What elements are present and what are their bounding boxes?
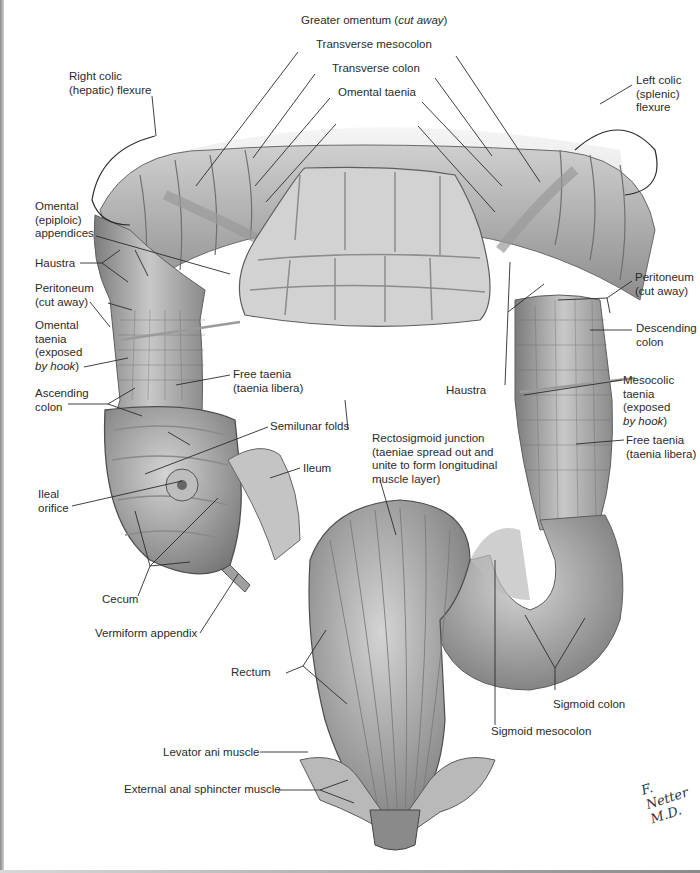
label-text-italic: cut away [398, 14, 443, 26]
label-line: orifice [38, 502, 69, 516]
label-line: unite to form longitudinal [372, 459, 497, 473]
label-line: taenia [35, 333, 82, 347]
label-line: Ileal [38, 488, 69, 502]
colon-illustration [0, 0, 700, 873]
label-descending-colon: Descending colon [636, 322, 697, 349]
label-ascending-colon: Ascending colon [35, 387, 89, 414]
label-peritoneum-left: Peritoneum (cut away) [35, 282, 94, 309]
label-line: by hook) [35, 360, 82, 374]
label-free-taenia-left: Free taenia (taenia libera) [233, 368, 303, 395]
label-line: Descending [636, 322, 697, 336]
label-transverse-mesocolon: Transverse mesocolon [316, 38, 432, 52]
label-line: Mesocolic [623, 374, 674, 388]
label-line: Omental [35, 200, 94, 214]
label-line: Free taenia [626, 434, 696, 448]
label-line: Peritoneum [635, 271, 694, 285]
label-line: (taeniae spread out and [372, 446, 497, 460]
label-haustra-left: Haustra [35, 257, 75, 271]
label-line: colon [35, 401, 89, 415]
label-sigmoid-colon: Sigmoid colon [553, 698, 625, 712]
label-line: appendices [35, 227, 94, 241]
label-text-suffix: ) [444, 14, 448, 26]
label-omental-taenia-left: Omental taenia (exposed by hook) [35, 319, 82, 373]
label-line: Omental [35, 319, 82, 333]
label-line: colon [636, 336, 697, 350]
label-line: (exposed [623, 401, 674, 415]
label-transverse-colon: Transverse colon [332, 62, 420, 76]
label-text-italic: by hook [35, 360, 75, 372]
label-ileal-orifice: Ileal orifice [38, 488, 69, 515]
external-anal-sphincter-shape [370, 810, 420, 850]
label-free-taenia-right: Free taenia (taenia libera) [626, 434, 696, 461]
label-line: Free taenia [233, 368, 303, 382]
label-line: muscle layer) [372, 473, 497, 487]
label-levator-ani: Levator ani muscle [163, 746, 260, 760]
label-line: Peritoneum [35, 282, 94, 296]
label-ileum: Ileum [303, 462, 331, 476]
label-line: (hepatic) flexure [69, 84, 151, 98]
label-line: Rectosigmoid junction [372, 432, 497, 446]
label-line: (cut away) [35, 296, 94, 310]
label-line: (exposed [35, 346, 82, 360]
label-peritoneum-right: Peritoneum (cut away) [635, 271, 694, 298]
label-line: (cut away) [635, 285, 694, 299]
label-greater-omentum: Greater omentum (cut away) [301, 14, 447, 28]
label-text-italic: by hook [623, 415, 663, 427]
vermiform-appendix-shape [222, 565, 250, 592]
label-right-colic-flexure: Right colic (hepatic) flexure [69, 70, 151, 97]
label-line: by hook) [623, 415, 674, 429]
label-line: Right colic [69, 70, 151, 84]
label-external-anal-sphincter: External anal sphincter muscle [124, 783, 281, 797]
label-omental-taenia-top: Omental taenia [338, 86, 416, 100]
label-line: Left colic [636, 74, 681, 88]
label-sigmoid-mesocolon: Sigmoid mesocolon [491, 725, 591, 739]
label-line: Ascending [35, 387, 89, 401]
label-line: (taenia libera) [626, 448, 696, 462]
label-omental-appendices: Omental (epiploic) appendices [35, 200, 94, 241]
label-line: (splenic) [636, 88, 681, 102]
label-line: (taenia libera) [233, 382, 303, 396]
figure-page: Greater omentum (cut away) Transverse me… [0, 0, 700, 873]
label-text-suffix: ) [75, 360, 79, 372]
label-mesocolic-taenia: Mesocolic taenia (exposed by hook) [623, 374, 674, 428]
label-rectosigmoid-junction: Rectosigmoid junction (taeniae spread ou… [372, 432, 497, 486]
label-vermiform-appendix: Vermiform appendix [95, 627, 197, 641]
label-left-colic-flexure: Left colic (splenic) flexure [636, 74, 681, 115]
label-cecum: Cecum [102, 593, 138, 607]
label-rectum: Rectum [231, 666, 271, 680]
label-line: (epiploic) [35, 214, 94, 228]
label-line: flexure [636, 101, 681, 115]
label-line: taenia [623, 388, 674, 402]
label-text: Greater omentum ( [301, 14, 398, 26]
label-semilunar-folds: Semilunar folds [270, 420, 349, 434]
label-text-suffix: ) [663, 415, 667, 427]
label-haustra-right: Haustra [446, 384, 486, 398]
